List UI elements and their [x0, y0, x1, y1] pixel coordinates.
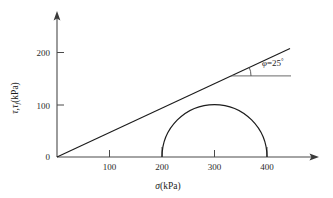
x-tick-label-300: 300 — [208, 162, 222, 172]
mohr-circle-figure: 100 200 300 400 0 100 200 σ(kPa) τ,τf(kP… — [0, 0, 333, 198]
x-tick-label-100: 100 — [103, 162, 117, 172]
x-tick-label-400: 400 — [260, 162, 274, 172]
x-axis-label: σ(kPa) — [155, 181, 180, 192]
y-axis-label-unit: (kPa) — [10, 82, 21, 103]
y-axis — [54, 11, 64, 157]
mohr-circle-curve — [162, 105, 267, 157]
x-axis — [57, 147, 319, 160]
x-axis-label-unit: (kPa) — [160, 181, 181, 192]
friction-angle-label: φ=25° — [262, 57, 284, 68]
x-tick-label-200: 200 — [155, 162, 169, 172]
failure-envelope-line — [57, 48, 290, 157]
figure-svg: 100 200 300 400 0 100 200 σ(kPa) τ,τf(kP… — [0, 0, 333, 198]
y-tick-label-100: 100 — [37, 101, 51, 111]
friction-angle-value: =25 — [267, 58, 282, 68]
y-axis-label: τ,τf(kPa) — [10, 82, 21, 114]
y-tick-label-200: 200 — [37, 48, 51, 58]
angle-arc-icon — [249, 67, 251, 76]
y-tick-label-0: 0 — [46, 152, 51, 162]
friction-angle-degree-icon: ° — [281, 57, 284, 64]
